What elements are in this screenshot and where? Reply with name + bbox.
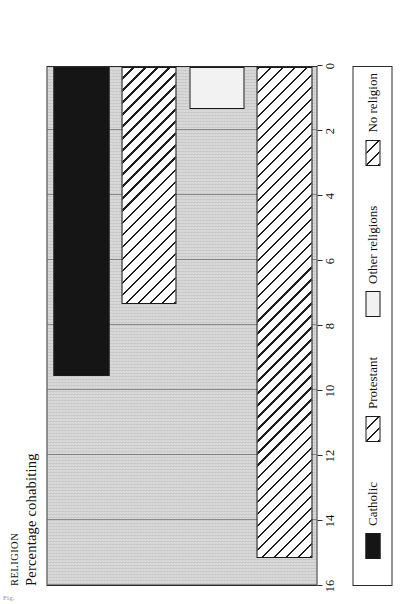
axis-tick (317, 520, 322, 521)
chart-legend: CatholicProtestantOther religionsNo reli… (352, 66, 392, 586)
value-axis-labels: 1614121086420 (322, 66, 344, 586)
axis-tick-label: 12 (322, 450, 337, 463)
legend-label: Protestant (364, 357, 380, 409)
bar-protestant (121, 67, 177, 304)
axis-tick-label: 8 (322, 323, 337, 329)
caption-fragment: Fig. (3, 594, 15, 602)
axis-tick-label: 0 (322, 63, 337, 69)
legend-label: No religion (364, 73, 380, 133)
bar-catholic (53, 67, 109, 376)
axis-tick-label: 4 (322, 193, 337, 199)
diagonal-hatch-swatch (365, 416, 380, 442)
chart-subtitle: Percentage cohabiting (22, 453, 38, 586)
legend-label: Other religions (364, 206, 380, 284)
legend-item: Other religions (364, 206, 380, 317)
bar-no-religion (256, 67, 312, 558)
legend-item: No religion (364, 73, 380, 166)
axis-tick-label: 10 (322, 385, 337, 398)
axis-tick (317, 130, 322, 131)
axis-tick (317, 260, 322, 261)
chart-kicker: RELIGION (8, 453, 20, 586)
diagonal-hatch-swatch (365, 140, 380, 166)
axis-tick (317, 585, 322, 586)
bar-group (47, 67, 316, 585)
axis-tick (317, 455, 322, 456)
bar-chart-figure: RELIGION Percentage cohabiting 161412108… (0, 0, 413, 604)
solid-black-swatch (365, 533, 380, 559)
bar-other-religions (189, 67, 245, 109)
axis-tick-label: 2 (322, 128, 337, 134)
axis-tick (317, 325, 322, 326)
plot-area (46, 66, 317, 586)
axis-tick (317, 390, 322, 391)
axis-tick-label: 16 (322, 580, 337, 593)
axis-tick (317, 195, 322, 196)
light-fill-swatch (365, 291, 380, 317)
legend-label: Catholic (364, 482, 380, 526)
rotated-figure-canvas: RELIGION Percentage cohabiting 161412108… (0, 0, 413, 604)
axis-tick-label: 6 (322, 258, 337, 264)
axis-tick (317, 65, 322, 66)
legend-item: Catholic (364, 482, 380, 559)
legend-item: Protestant (364, 357, 380, 442)
axis-tick-label: 14 (322, 515, 337, 528)
chart-heading: RELIGION Percentage cohabiting (8, 453, 38, 586)
